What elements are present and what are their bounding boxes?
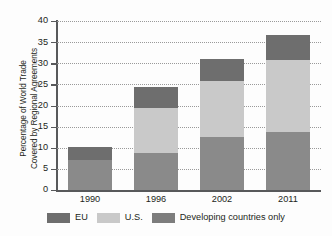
legend-label: U.S. [125, 213, 143, 222]
bar-segment-2002-developing-countries-only [200, 137, 244, 190]
y-tick-label-5: 5 [26, 164, 48, 173]
x-tick-label-2011: 2011 [263, 195, 313, 204]
legend-swatch-icon [47, 213, 70, 223]
x-tick-label-1990: 1990 [65, 195, 115, 204]
y-tick-label-40: 40 [26, 16, 48, 25]
bar-segment-2011-u-s [266, 60, 310, 132]
y-axis-tick-labels: 0510152025303540 [20, 0, 48, 246]
y-tick-label-20: 20 [26, 101, 48, 110]
legend-swatch-icon [152, 213, 175, 223]
bar-segment-2011-developing-countries-only [266, 132, 310, 190]
y-tick-label-30: 30 [26, 59, 48, 68]
bar-1996 [134, 87, 178, 191]
legend-item-eu[interactable]: EU [47, 213, 88, 223]
bar-1990 [68, 147, 112, 190]
legend-item-u-s[interactable]: U.S. [97, 213, 143, 223]
y-tick-label-35: 35 [26, 38, 48, 47]
legend-label: Developing countries only [180, 213, 285, 222]
bar-2011 [266, 35, 310, 190]
x-tick-label-2002: 2002 [197, 195, 247, 204]
y-tick-label-10: 10 [26, 143, 48, 152]
x-axis-line [56, 190, 321, 192]
bar-segment-2002-u-s [200, 81, 244, 136]
stacked-bar-chart: Percentage of World Trade Covered by Reg… [0, 0, 332, 246]
x-tick-label-1996: 1996 [131, 195, 181, 204]
plot-area [57, 21, 321, 190]
bottom-margin [0, 236, 332, 246]
legend: EUU.S.Developing countries only [0, 213, 332, 223]
legend-item-developing-countries-only[interactable]: Developing countries only [152, 213, 285, 223]
bar-segment-1996-eu [134, 87, 178, 109]
bar-segment-1996-u-s [134, 108, 178, 152]
y-tick-label-0: 0 [26, 185, 48, 194]
bar-segment-1990-eu [68, 147, 112, 159]
bar-segment-1990-developing-countries-only [68, 160, 112, 190]
legend-swatch-icon [97, 213, 120, 223]
bar-2002 [200, 59, 244, 190]
y-tick-label-25: 25 [26, 80, 48, 89]
bar-segment-2002-eu [200, 59, 244, 81]
gridline-40 [57, 21, 321, 22]
y-tick-label-15: 15 [26, 122, 48, 131]
legend-label: EU [75, 213, 88, 222]
bar-segment-2011-eu [266, 35, 310, 60]
bar-segment-1996-developing-countries-only [134, 153, 178, 190]
